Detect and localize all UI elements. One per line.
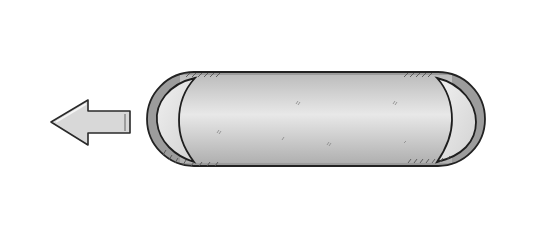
left-direction-arrow-icon xyxy=(51,100,130,145)
maglev-vehicle-capsule xyxy=(147,72,485,166)
maglev-diagram xyxy=(0,0,540,238)
